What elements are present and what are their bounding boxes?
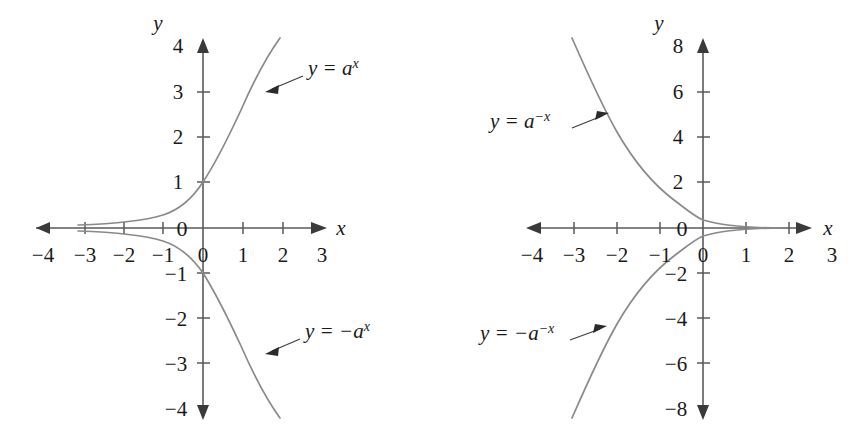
left-origin-zero-upper: 0 [177,216,188,241]
left-y-axis-label: y [151,11,163,35]
left-y-tick-label-2: 2 [173,125,184,149]
chart-panel-right: x y −4 −3 −2 −1 1 2 3 0 0 8 6 4 2 −2 −4 … [434,0,867,433]
right-annotation-negative: y = −a−x [478,321,607,345]
left-annotation-negative: y = −ax [265,319,371,356]
left-x-tick-label-2: 2 [278,243,289,267]
right-label-neg-base: a [528,321,539,345]
left-y-tick-label--2: −2 [165,307,187,331]
right-x-tick-label--3: −3 [563,243,585,267]
right-plot-svg: x y −4 −3 −2 −1 1 2 3 0 0 8 6 4 2 −2 −4 … [434,0,867,433]
right-annotation-positive: y = a−x [488,109,609,133]
left-label-neg-exp: x [363,319,371,334]
left-x-axis-label: x [335,216,346,240]
right-origin-zero-upper: 0 [677,216,688,241]
left-label-pos-lhs: y = [306,56,342,80]
left-x-tick-label-3: 3 [317,243,328,267]
right-label-pos-lhs: y = [488,109,524,133]
left-label-pos-exp: x [352,56,360,71]
right-y-axis-arrow-up [697,38,709,53]
left-y-tick-label--3: −3 [165,352,187,376]
right-y-tick-label-8: 8 [673,34,684,58]
right-y-tick-label--8: −8 [665,397,687,421]
right-x-tick-label-2: 2 [784,243,795,267]
left-plot-svg: x y −4 −3 −2 −1 1 2 3 0 0 4 3 2 1 −1 −2 … [0,0,434,433]
left-label-neg-lhs: y = − [303,319,353,343]
right-x-tick-label--2: −2 [606,243,628,267]
right-y-tick-label-4: 4 [673,125,684,149]
left-x-tick-label--2: −2 [113,243,135,267]
right-y-tick-label--4: −4 [665,307,688,331]
left-curve-label-negative: y = −ax [303,319,371,343]
right-y-axis-label: y [652,11,664,35]
left-y-tick-label-3: 3 [173,80,184,104]
left-x-axis-arrow-left [36,222,50,234]
left-x-axis-arrow-right [311,222,327,234]
right-curve-label-positive: y = a−x [488,109,551,133]
right-curve-label-negative: y = −a−x [478,321,555,345]
left-y-axis-arrow-down [197,405,209,420]
left-y-tick-label--4: −4 [165,397,188,421]
right-y-tick-label-2: 2 [673,170,684,194]
right-x-axis-label: x [822,216,833,240]
left-annotation-positive: y = ax [265,56,360,94]
left-label-pos-base: a [342,56,353,80]
right-x-tick-label-3: 3 [827,243,838,267]
right-origin-zero-lower: 0 [698,243,709,267]
left-label-neg-base: a [353,319,364,343]
left-x-tick-label-1: 1 [238,243,249,267]
right-label-neg-lhs: y = − [478,321,528,345]
left-y-axis-arrow-up [197,38,209,53]
left-curve-label-positive: y = ax [306,56,360,80]
right-label-pos-base: a [524,109,535,133]
right-x-axis-arrow-right [796,222,812,234]
right-label-pos-exp: −x [535,109,551,124]
right-y-tick-label--2: −2 [665,262,687,286]
left-origin-zero-lower: 0 [198,243,209,267]
left-x-tick-label--4: −4 [32,243,55,267]
right-x-tick-label--4: −4 [521,243,544,267]
left-x-tick-label--3: −3 [74,243,96,267]
right-x-tick-label-1: 1 [741,243,752,267]
right-x-axis-arrow-left [526,222,541,234]
math-figure: x y −4 −3 −2 −1 1 2 3 0 0 4 3 2 1 −1 −2 … [0,0,867,433]
right-y-tick-label--6: −6 [665,352,687,376]
left-y-tick-label--1: −1 [165,262,187,286]
left-y-tick-label-1: 1 [173,170,184,194]
right-y-tick-label-6: 6 [673,80,684,104]
chart-panel-left: x y −4 −3 −2 −1 1 2 3 0 0 4 3 2 1 −1 −2 … [0,0,434,433]
right-y-axis-arrow-down [697,405,709,420]
right-label-neg-exp: −x [539,321,555,336]
left-y-tick-label-4: 4 [173,34,184,58]
